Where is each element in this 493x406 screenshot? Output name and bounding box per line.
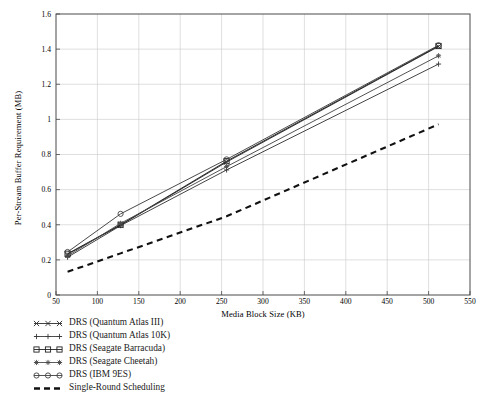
legend-item[interactable]: DRS (Seagate Barracuda) bbox=[33, 342, 293, 355]
legend-item[interactable]: DRS (Quantum Atlas III) bbox=[33, 316, 293, 329]
y-tick-label: 0.2 bbox=[42, 256, 52, 265]
y-tick-label: 1.6 bbox=[42, 10, 52, 19]
chart-y-tick-labels: 00.20.40.60.811.21.41.6 bbox=[42, 10, 52, 300]
legend-item[interactable]: DRS (Quantum Atlas 10K) bbox=[33, 329, 293, 342]
y-tick-label: 1.4 bbox=[42, 45, 52, 54]
x-tick-label: 500 bbox=[423, 297, 435, 306]
x-tick-label: 100 bbox=[92, 297, 104, 306]
x-tick-label: 450 bbox=[382, 297, 394, 306]
chart-legend: DRS (Quantum Atlas III)DRS (Quantum Atla… bbox=[33, 316, 293, 394]
legend-sample-x-marker bbox=[33, 316, 63, 329]
y-tick-label: 1.2 bbox=[42, 80, 52, 89]
y-tick-label: 0.4 bbox=[42, 221, 52, 230]
y-tick-label: 0 bbox=[47, 291, 51, 300]
legend-sample-circle-marker bbox=[33, 368, 63, 381]
legend-item-label: DRS (Quantum Atlas 10K) bbox=[63, 329, 170, 342]
legend-sample-asterisk-marker bbox=[33, 355, 63, 368]
chart-series-layer bbox=[65, 43, 441, 272]
x-tick-label: 350 bbox=[299, 297, 311, 306]
chart-gridlines bbox=[56, 14, 470, 295]
x-tick-label: 200 bbox=[175, 297, 187, 306]
x-tick-label: 150 bbox=[133, 297, 145, 306]
legend-item[interactable]: DRS (Seagate Cheetah) bbox=[33, 355, 293, 368]
chart-series bbox=[65, 61, 441, 259]
legend-item-label: DRS (Seagate Barracuda) bbox=[63, 342, 165, 355]
legend-item[interactable]: Single-Round Scheduling bbox=[33, 381, 293, 394]
series-line bbox=[68, 64, 439, 257]
legend-item[interactable]: DRS (IBM 9ES) bbox=[33, 368, 293, 381]
legend-sample-square-marker bbox=[33, 342, 63, 355]
y-tick-label: 0.8 bbox=[42, 150, 52, 159]
legend-sample-none bbox=[33, 381, 63, 394]
chart-x-tick-labels: 50100150200250300350400450500550 bbox=[52, 297, 476, 306]
x-tick-label: 400 bbox=[340, 297, 352, 306]
chart-figure: 50100150200250300350400450500550 00.20.4… bbox=[0, 0, 493, 406]
x-tick-label: 300 bbox=[257, 297, 269, 306]
legend-item-label: DRS (Seagate Cheetah) bbox=[63, 355, 157, 368]
y-tick-label: 0.6 bbox=[42, 185, 52, 194]
x-tick-label: 50 bbox=[52, 297, 60, 306]
chart-y-axis-title: Per-Stream Buffer Requirement (MB) bbox=[13, 91, 23, 225]
y-tick-label: 1 bbox=[47, 115, 51, 124]
legend-item-label: DRS (IBM 9ES) bbox=[63, 368, 131, 381]
x-tick-label: 550 bbox=[464, 297, 476, 306]
legend-sample-plus-marker bbox=[33, 329, 63, 342]
x-tick-label: 250 bbox=[216, 297, 228, 306]
legend-item-label: Single-Round Scheduling bbox=[63, 381, 165, 394]
legend-item-label: DRS (Quantum Atlas III) bbox=[63, 316, 163, 329]
